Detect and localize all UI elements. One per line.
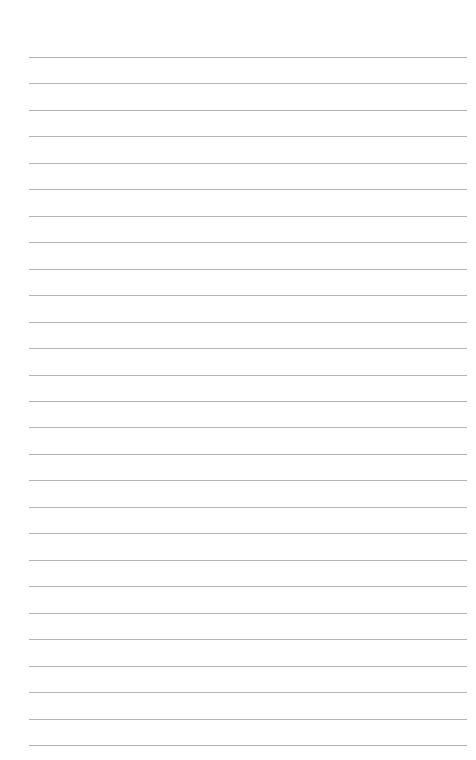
- ruled-line: [29, 295, 467, 296]
- ruled-line: [29, 348, 467, 349]
- ruled-line: [29, 322, 467, 323]
- ruled-line: [29, 507, 467, 508]
- ruled-line: [29, 613, 467, 614]
- ruled-line: [29, 216, 467, 217]
- ruled-line: [29, 480, 467, 481]
- lined-paper-page: [0, 0, 476, 760]
- ruled-line: [29, 401, 467, 402]
- ruled-line: [29, 375, 467, 376]
- ruled-line: [29, 83, 467, 84]
- ruled-line: [29, 242, 467, 243]
- ruled-line: [29, 745, 467, 746]
- ruled-line: [29, 719, 467, 720]
- ruled-line: [29, 666, 467, 667]
- ruled-line: [29, 586, 467, 587]
- ruled-line: [29, 427, 467, 428]
- ruled-line: [29, 189, 467, 190]
- ruled-line: [29, 269, 467, 270]
- ruled-line: [29, 136, 467, 137]
- ruled-line: [29, 560, 467, 561]
- ruled-line: [29, 454, 467, 455]
- ruled-line: [29, 110, 467, 111]
- ruled-line: [29, 533, 467, 534]
- ruled-line: [29, 639, 467, 640]
- ruled-line: [29, 692, 467, 693]
- ruled-line: [29, 163, 467, 164]
- ruled-line: [29, 57, 467, 58]
